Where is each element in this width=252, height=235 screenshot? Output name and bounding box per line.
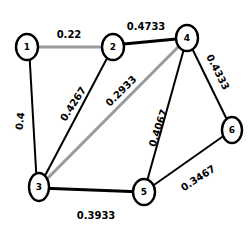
node-label-5: 5 <box>141 187 147 197</box>
node-2: 2 <box>102 34 124 60</box>
node-1: 1 <box>16 34 38 60</box>
edge-label-2-4: 0.4733 <box>127 21 166 32</box>
node-label-2: 2 <box>110 42 116 52</box>
node-5: 5 <box>133 179 155 205</box>
edge-label-1-2: 0.22 <box>57 29 82 40</box>
node-4: 4 <box>176 25 198 51</box>
edge-label-4-6: 0.4333 <box>204 52 231 91</box>
edge-2-3 <box>39 47 113 187</box>
graph-diagram: 0.22 0.4 0.4267 0.4733 0.2933 0.4067 0.4… <box>0 0 252 235</box>
node-label-1: 1 <box>24 42 30 52</box>
edge-label-5-6: 0.3467 <box>179 163 217 193</box>
node-label-6: 6 <box>229 125 235 135</box>
node-6: 6 <box>222 117 242 143</box>
edge-1-3 <box>29 47 37 187</box>
edge-3-5 <box>39 188 144 192</box>
edge-label-3-5: 0.3933 <box>77 210 116 221</box>
node-3: 3 <box>29 173 49 201</box>
node-label-3: 3 <box>36 182 42 192</box>
node-label-4: 4 <box>184 33 190 43</box>
edge-label-1-3: 0.4 <box>14 112 27 131</box>
edge-label-4-5: 0.4067 <box>147 108 169 148</box>
